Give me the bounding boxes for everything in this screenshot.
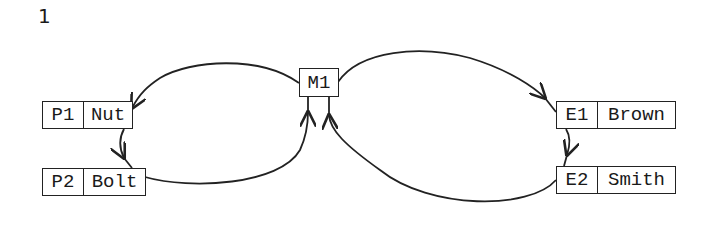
node-p1-id: P1 <box>43 102 83 128</box>
edge-e1-e2 <box>566 129 570 155</box>
node-m1-id: M1 <box>300 69 338 96</box>
edge-m1-e1 <box>338 51 545 98</box>
node-e1-id: E1 <box>557 102 597 128</box>
node-p2: P2 Bolt <box>42 168 146 196</box>
node-p2-label: Bolt <box>83 169 145 195</box>
node-e2-id: E2 <box>557 167 597 193</box>
node-p2-id: P2 <box>43 169 83 195</box>
edge-p1-p2 <box>120 129 124 158</box>
node-e1-label: Brown <box>597 102 675 128</box>
node-p1: P1 Nut <box>42 101 133 129</box>
node-m1: M1 <box>299 68 339 97</box>
node-p1-label: Nut <box>83 102 132 128</box>
node-e2: E2 Smith <box>556 166 676 194</box>
edge-e2-m1 <box>329 115 556 201</box>
node-e2-label: Smith <box>597 167 675 193</box>
edge-m1-p1 <box>132 63 299 108</box>
node-e1: E1 Brown <box>556 101 676 129</box>
edge-p2-m1 <box>145 112 308 184</box>
